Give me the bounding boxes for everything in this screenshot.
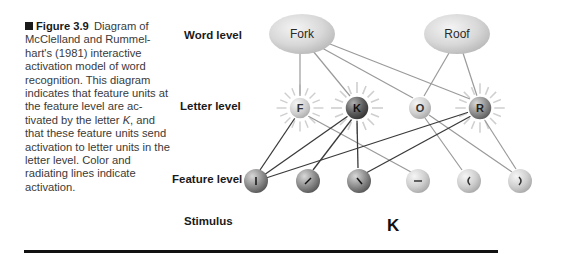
- feature-unit-vertical: [244, 169, 268, 193]
- stimulus-letter: K: [387, 216, 399, 236]
- word-unit-fork: Fork: [269, 14, 335, 54]
- svg-text:Roof: Roof: [444, 27, 470, 41]
- svg-text:R: R: [476, 102, 484, 114]
- svg-text:O: O: [416, 102, 425, 114]
- svg-text:K: K: [353, 102, 361, 114]
- svg-text:Fork: Fork: [290, 27, 315, 41]
- feature-unit-back-diagonal: [347, 169, 371, 193]
- word-unit-roof: Roof: [424, 14, 490, 54]
- feature-unit-right-curve: [508, 169, 532, 193]
- feature-unit-horizontal: [406, 169, 430, 193]
- interactive-activation-diagram: Fork Roof F K O R: [0, 0, 561, 254]
- inactive-letter-feature-connections: [308, 115, 516, 172]
- active-letter-feature-connections: [260, 112, 471, 178]
- letter-unit-k: K: [345, 96, 369, 120]
- feature-unit-left-curve: [457, 169, 481, 193]
- letter-unit-f: F: [289, 97, 311, 119]
- letter-unit-r: R: [468, 96, 492, 120]
- svg-text:F: F: [297, 102, 304, 114]
- letter-unit-o: O: [409, 97, 431, 119]
- feature-unit-forward-diagonal: [296, 169, 320, 193]
- bottom-rule: [24, 250, 498, 253]
